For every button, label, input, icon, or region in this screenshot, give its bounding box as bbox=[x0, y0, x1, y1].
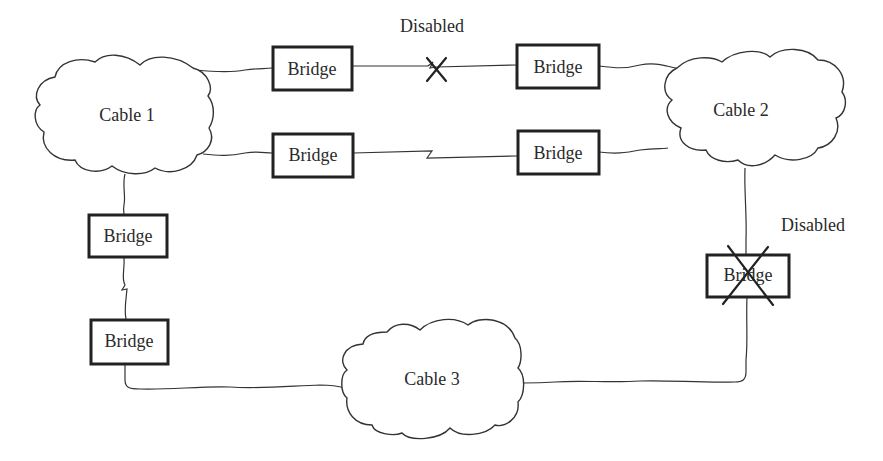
disabled-link-x-icon bbox=[427, 58, 446, 81]
bridge-mid-right: Bridge bbox=[518, 131, 599, 174]
cable2-label: Cable 2 bbox=[713, 100, 769, 120]
bridge-top-left: Bridge bbox=[273, 47, 352, 90]
bridge-top-right: Bridge bbox=[517, 45, 599, 88]
bridge-mid-left-label: Bridge bbox=[289, 145, 338, 165]
bridge-mid-right-label: Bridge bbox=[534, 143, 583, 163]
wire-bridge-top-right-cable2 bbox=[599, 64, 676, 68]
wire-bridge-left-lower-cable3 bbox=[125, 364, 345, 389]
wire-bridge-right-cable3 bbox=[523, 297, 747, 383]
bridge-right-label: Bridge bbox=[724, 265, 773, 285]
network-diagram: Cable 1 Cable 2 Cable 3 Bridge Bridge Br… bbox=[0, 0, 883, 461]
bridge-left-lower-label: Bridge bbox=[105, 331, 154, 351]
bridge-right-disabled: Bridge bbox=[707, 246, 789, 305]
bridge-left-lower: Bridge bbox=[91, 320, 168, 364]
wire-cable1-bridge-left-upper bbox=[124, 174, 125, 214]
wire-remote-link-left bbox=[122, 257, 127, 319]
bridge-left-upper: Bridge bbox=[89, 215, 167, 257]
wire-cable2-bridge-right bbox=[745, 168, 746, 254]
cable3-label: Cable 3 bbox=[404, 369, 460, 389]
wire-cable1-bridge-top-left bbox=[196, 68, 272, 72]
disabled-right-label: Disabled bbox=[781, 215, 845, 235]
cable1-label: Cable 1 bbox=[99, 105, 155, 125]
bridge-top-left-label: Bridge bbox=[288, 59, 337, 79]
cable1-cloud: Cable 1 bbox=[35, 55, 213, 174]
wire-bridge-mid-right-cable2 bbox=[599, 148, 668, 153]
cable2-cloud: Cable 2 bbox=[665, 49, 846, 165]
disabled-top-label: Disabled bbox=[400, 16, 464, 36]
cable3-cloud: Cable 3 bbox=[342, 319, 524, 438]
bridge-mid-left: Bridge bbox=[273, 134, 353, 177]
bridge-left-upper-label: Bridge bbox=[104, 226, 153, 246]
wire-cable1-bridge-mid-left bbox=[203, 152, 272, 155]
wire-remote-link-top bbox=[353, 151, 517, 158]
bridge-top-right-label: Bridge bbox=[534, 57, 583, 77]
